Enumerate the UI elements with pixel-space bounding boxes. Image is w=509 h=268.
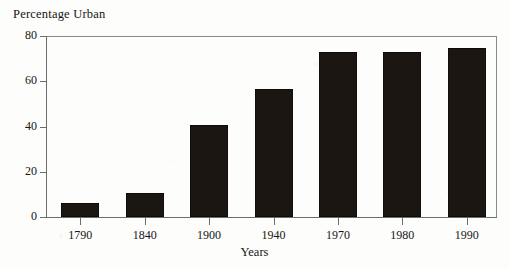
x-tick-label: 1970 <box>326 228 350 243</box>
x-tick-label: 1790 <box>68 228 92 243</box>
x-tick-label: 1980 <box>390 228 414 243</box>
bar <box>61 203 99 217</box>
x-tick-mark <box>145 218 146 225</box>
x-tick-mark <box>80 218 81 225</box>
y-tick-label: 80 <box>25 28 37 43</box>
x-tick-mark <box>467 218 468 225</box>
y-tick-label: 0 <box>31 209 37 224</box>
bar <box>190 125 228 217</box>
bar-chart-figure: Percentage Urban 020406080 1790184019001… <box>0 0 509 268</box>
bar <box>255 89 293 217</box>
y-tick-label: 40 <box>25 119 37 134</box>
page-title: Percentage Urban <box>13 7 105 22</box>
x-tick-mark <box>402 218 403 225</box>
bar <box>383 52 421 217</box>
x-tick-mark <box>338 218 339 225</box>
y-tick-label: 60 <box>25 73 37 88</box>
x-tick-label: 1940 <box>262 228 286 243</box>
x-axis-label: Years <box>0 245 509 260</box>
bar <box>448 48 486 217</box>
x-tick-label: 1990 <box>455 228 479 243</box>
x-tick-label: 1900 <box>197 228 221 243</box>
x-tick-label: 1840 <box>133 228 157 243</box>
x-tick-mark <box>209 218 210 225</box>
bar <box>319 52 357 217</box>
bar <box>126 193 164 217</box>
plot-area: 020406080 1790184019001940197019801990 <box>46 36 497 218</box>
x-tick-mark <box>274 218 275 225</box>
bar-series <box>46 36 497 218</box>
y-tick-label: 20 <box>25 164 37 179</box>
